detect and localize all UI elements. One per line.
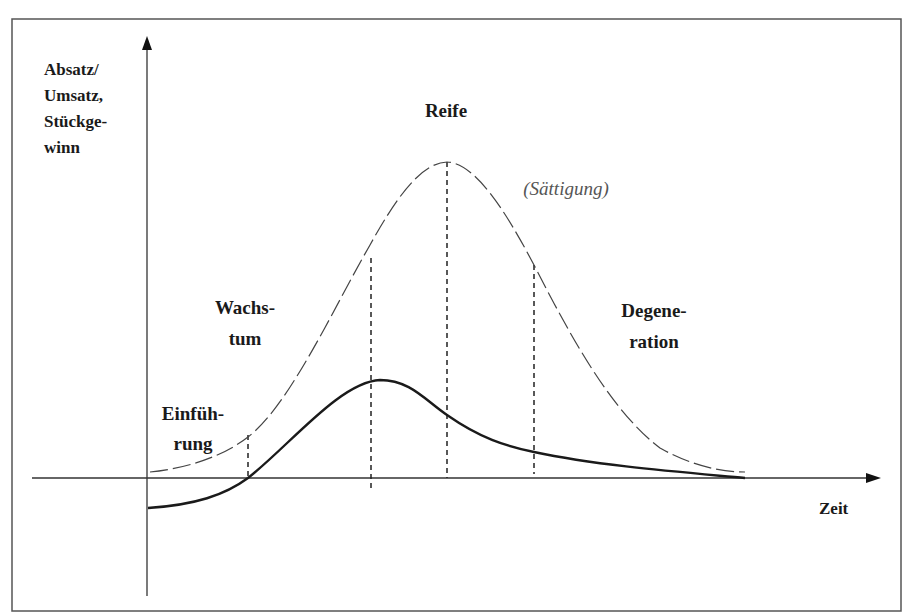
phase-label-wachstum-1: Wachs- <box>215 297 275 318</box>
phase-label-einfuehrung-2: rung <box>173 433 213 454</box>
phase-label-einfuehrung-1: Einfüh- <box>162 403 224 424</box>
phase-label-saettigung: (Sättigung) <box>523 178 609 200</box>
y-axis-arrow-icon <box>142 36 152 50</box>
x-axis-label: Zeit <box>819 499 849 518</box>
y-axis-label-line-2: Umsatz, <box>44 86 103 105</box>
phase-label-degeneration-1: Degene- <box>621 300 686 321</box>
y-axis-label-line-1: Absatz/ <box>44 60 99 79</box>
y-axis-label-line-4: winn <box>44 138 80 157</box>
product-lifecycle-diagram: Absatz/ Umsatz, Stückge- winn Zeit Einfü… <box>0 0 906 616</box>
phase-label-degeneration-2: ration <box>629 331 679 352</box>
phase-label-wachstum-2: tum <box>229 328 262 349</box>
x-axis-arrow-icon <box>866 473 881 483</box>
phase-label-reife: Reife <box>425 100 467 121</box>
y-axis-label-line-3: Stückge- <box>44 112 108 131</box>
